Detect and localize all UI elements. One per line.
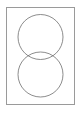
page-frame bbox=[6, 7, 75, 105]
diagram-canvas bbox=[0, 0, 82, 113]
